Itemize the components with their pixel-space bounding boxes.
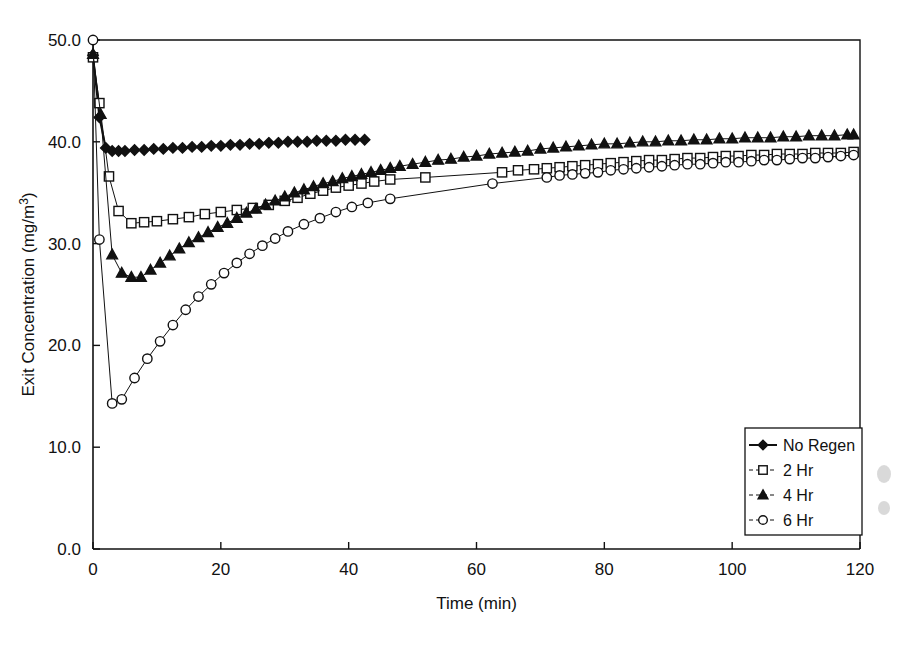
marker-filled-diamond xyxy=(216,141,226,151)
marker-open-circle xyxy=(117,395,126,404)
marker-filled-triangle xyxy=(663,135,674,145)
x-tick-label: 80 xyxy=(595,560,614,579)
legend-label: 2 Hr xyxy=(783,462,814,479)
marker-open-square xyxy=(114,206,123,215)
y-tick-label: 0.0 xyxy=(57,540,81,559)
marker-open-square xyxy=(216,207,225,216)
data-series-layer xyxy=(88,35,859,408)
marker-open-circle xyxy=(542,173,551,182)
marker-filled-triangle xyxy=(740,132,751,142)
series-line xyxy=(93,40,854,403)
x-tick-label: 40 xyxy=(339,560,358,579)
y-tick-label: 50.0 xyxy=(48,31,81,50)
marker-filled-triangle xyxy=(164,250,175,260)
series-no-regen xyxy=(88,50,370,156)
marker-open-circle xyxy=(555,171,564,180)
svg-text:Exit Concentration (mg/m3): Exit Concentration (mg/m3) xyxy=(17,192,38,396)
marker-open-square xyxy=(357,179,366,188)
marker-filled-diamond xyxy=(235,140,245,150)
marker-open-circle xyxy=(107,399,116,408)
series-line xyxy=(93,57,854,223)
marker-open-square xyxy=(140,218,149,227)
marker-open-circle xyxy=(155,337,164,346)
marker-open-circle xyxy=(734,157,743,166)
marker-open-circle xyxy=(258,241,267,250)
marker-open-circle xyxy=(644,163,653,172)
marker-filled-triangle xyxy=(804,130,815,140)
y-axis-title: Exit Concentration (mg/m3) xyxy=(17,192,38,396)
series-markers xyxy=(88,49,859,282)
marker-open-circle xyxy=(593,168,602,177)
marker-open-circle xyxy=(363,198,372,207)
marker-filled-triangle xyxy=(714,133,725,143)
marker-filled-triangle xyxy=(637,136,648,146)
marker-open-circle xyxy=(270,234,279,243)
marker-open-circle xyxy=(143,354,152,363)
marker-open-circle xyxy=(299,220,308,229)
marker-open-circle xyxy=(823,152,832,161)
marker-open-circle xyxy=(798,153,807,162)
y-tick-label: 40.0 xyxy=(48,133,81,152)
marker-open-square xyxy=(759,466,767,474)
marker-open-square xyxy=(152,217,161,226)
marker-filled-diamond xyxy=(359,135,369,145)
x-tick-label: 20 xyxy=(211,560,230,579)
series-line xyxy=(93,55,365,151)
marker-open-square xyxy=(200,209,209,218)
marker-open-circle xyxy=(130,373,139,382)
marker-open-circle xyxy=(331,207,340,216)
marker-open-circle xyxy=(747,156,756,165)
marker-filled-triangle xyxy=(145,264,156,274)
marker-open-circle xyxy=(811,153,820,162)
x-axis-title: Time (min) xyxy=(436,594,517,613)
marker-open-circle xyxy=(88,35,97,44)
marker-filled-triangle xyxy=(116,268,127,278)
marker-open-circle xyxy=(207,280,216,289)
marker-open-circle xyxy=(759,516,768,525)
legend-label: No Regen xyxy=(783,437,855,454)
marker-open-circle xyxy=(772,155,781,164)
marker-open-circle xyxy=(619,165,628,174)
marker-open-circle xyxy=(849,150,858,159)
marker-open-circle xyxy=(219,268,228,277)
marker-open-circle xyxy=(347,202,356,211)
marker-filled-triangle xyxy=(126,272,137,282)
scan-speck xyxy=(877,465,891,483)
y-axis-ticks: 0.010.020.030.040.050.0 xyxy=(48,31,100,559)
marker-filled-triangle xyxy=(155,257,166,267)
marker-filled-triangle xyxy=(212,222,223,232)
marker-filled-triangle xyxy=(599,138,610,148)
marker-open-circle xyxy=(386,194,395,203)
scan-speck xyxy=(878,501,890,515)
y-tick-label: 30.0 xyxy=(48,235,81,254)
marker-filled-triangle xyxy=(174,243,185,253)
marker-open-circle xyxy=(568,170,577,179)
marker-open-circle xyxy=(181,305,190,314)
chart-canvas: 020406080100120 0.010.020.030.040.050.0 … xyxy=(0,0,907,645)
marker-open-circle xyxy=(785,154,794,163)
marker-filled-triangle xyxy=(752,132,763,142)
legend-label: 4 Hr xyxy=(783,487,814,504)
marker-open-circle xyxy=(95,235,104,244)
marker-open-circle xyxy=(245,249,254,258)
marker-filled-diamond xyxy=(254,139,264,149)
axis-titles: Time (min)Exit Concentration (mg/m3) xyxy=(17,192,517,613)
y-tick-label: 10.0 xyxy=(48,438,81,457)
marker-open-circle xyxy=(194,292,203,301)
marker-open-square xyxy=(184,213,193,222)
scan-artifact-group xyxy=(877,465,891,515)
x-axis-ticks: 020406080100120 xyxy=(88,542,874,579)
x-tick-label: 120 xyxy=(846,560,874,579)
marker-filled-diamond xyxy=(158,144,168,154)
marker-filled-triangle xyxy=(816,130,827,140)
marker-filled-diamond xyxy=(177,143,187,153)
chart-figure: 020406080100120 0.010.020.030.040.050.0 … xyxy=(0,0,907,645)
marker-filled-diamond xyxy=(273,138,283,148)
marker-open-circle xyxy=(632,164,641,173)
series-markers xyxy=(88,50,370,156)
marker-open-circle xyxy=(721,157,730,166)
marker-open-square xyxy=(513,166,522,175)
y-tick-label: 20.0 xyxy=(48,336,81,355)
marker-filled-triangle xyxy=(95,109,106,119)
marker-filled-triangle xyxy=(688,134,699,144)
